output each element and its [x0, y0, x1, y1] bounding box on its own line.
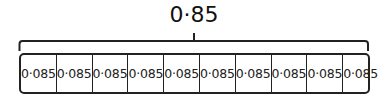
part-label: 0·085: [57, 66, 92, 81]
part-label: 0·085: [200, 66, 235, 81]
part-label: 0·085: [307, 66, 342, 81]
part-cell: 0·085: [56, 55, 92, 92]
part-label: 0·085: [343, 66, 378, 81]
part-label: 0·085: [164, 66, 199, 81]
part-cell: 0·085: [163, 55, 199, 92]
part-cell: 0·085: [235, 55, 271, 92]
part-label: 0·085: [236, 66, 271, 81]
partition-bar: 0·085 0·085 0·085 0·085 0·085 0·085 0·08…: [19, 53, 370, 94]
part-label: 0·085: [272, 66, 307, 81]
part-label: 0·085: [128, 66, 163, 81]
part-cell: 0·085: [342, 55, 378, 92]
part-label: 0·085: [93, 66, 128, 81]
part-cell: 0·085: [199, 55, 235, 92]
part-cell: 0·085: [271, 55, 307, 92]
part-cell: 0·085: [21, 55, 56, 92]
part-label: 0·085: [21, 66, 56, 81]
part-cell: 0·085: [127, 55, 163, 92]
part-cell: 0·085: [92, 55, 128, 92]
part-cell: 0·085: [306, 55, 342, 92]
